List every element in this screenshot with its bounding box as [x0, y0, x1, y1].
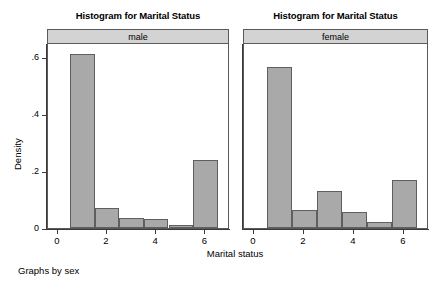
bar-male-6	[193, 160, 218, 228]
x-tick-male-2	[106, 230, 107, 234]
x-tick-male-0	[57, 230, 58, 234]
x-tick-label-male-0: 0	[37, 235, 77, 246]
plot-area-male	[47, 44, 229, 229]
plot-area-female	[243, 44, 428, 229]
chart-figure: Histogram for Marital Status male 0.2.4.…	[0, 0, 438, 287]
x-tick-label-female-4: 4	[333, 235, 373, 246]
x-tick-female-6	[403, 230, 404, 234]
panel-banner-female: female	[243, 29, 428, 44]
bar-female-2	[292, 210, 317, 229]
y-tick-.4	[42, 115, 46, 116]
bar-female-5	[367, 222, 392, 228]
x-tick-female-4	[353, 230, 354, 234]
y-tick-label-.6: .6	[20, 52, 39, 62]
x-tick-label-female-0: 0	[233, 235, 273, 246]
bar-male-4	[144, 219, 169, 228]
panel-banner-label-female: female	[322, 32, 349, 42]
y-tick-.2	[42, 172, 46, 173]
x-tick-male-4	[155, 230, 156, 234]
bar-female-1	[267, 67, 292, 228]
x-tick-male-6	[204, 230, 205, 234]
bar-female-3	[317, 191, 342, 228]
figure-footnote: Graphs by sex	[18, 265, 79, 276]
x-tick-label-male-6: 6	[184, 235, 224, 246]
panel-banner-male: male	[47, 29, 229, 44]
y-axis-title: Density	[12, 138, 23, 170]
bar-male-3	[119, 218, 144, 228]
panel-title-female: Histogram for Marital Status	[243, 10, 428, 21]
x-axis-title: Marital status	[180, 248, 290, 259]
y-tick-.6	[42, 58, 46, 59]
x-tick-label-male-2: 2	[86, 235, 126, 246]
x-axis-line-female	[242, 229, 429, 230]
y-axis-line	[46, 44, 47, 230]
bar-female-4	[342, 212, 367, 228]
y-axis-line-female	[242, 44, 243, 230]
x-tick-label-female-2: 2	[283, 235, 323, 246]
panel-title-male: Histogram for Marital Status	[47, 10, 229, 21]
x-tick-label-female-6: 6	[383, 235, 423, 246]
bar-male-5	[169, 225, 194, 228]
y-tick-label-.4: .4	[20, 109, 39, 119]
x-tick-label-male-4: 4	[135, 235, 175, 246]
bar-female-6	[392, 180, 417, 228]
bar-male-2	[95, 208, 120, 228]
x-tick-female-0	[253, 230, 254, 234]
x-tick-female-2	[303, 230, 304, 234]
bar-male-1	[70, 54, 95, 228]
y-tick-label-0: 0	[20, 223, 39, 233]
x-axis-line-male	[46, 229, 230, 230]
y-tick-0	[42, 229, 46, 230]
panel-banner-label-male: male	[128, 32, 148, 42]
